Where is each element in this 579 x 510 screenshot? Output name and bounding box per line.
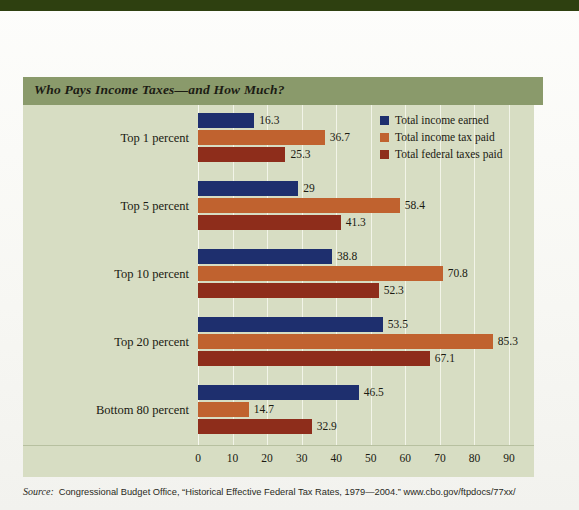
legend-item: Total income tax paid <box>380 130 530 145</box>
legend-item: Total federal taxes paid <box>380 147 530 162</box>
bar <box>198 402 249 417</box>
x-tick-label: 40 <box>330 452 342 464</box>
category-label: Bottom 80 percent <box>23 379 189 441</box>
legend-swatch-icon <box>380 150 389 159</box>
source-label: Source: <box>23 486 54 497</box>
x-tick-label: 60 <box>400 452 412 464</box>
x-tick-label: 30 <box>296 452 308 464</box>
bar-value-label: 38.8 <box>337 249 357 264</box>
figure-title-bar: Who Pays Income Taxes—and How Much? <box>23 77 543 105</box>
bar-value-label: 36.7 <box>330 130 350 145</box>
legend-label: Total income tax paid <box>395 130 495 145</box>
x-axis: 0102030405060708090 <box>23 445 534 477</box>
bar-value-label: 52.3 <box>384 283 404 298</box>
bar <box>198 334 493 349</box>
source-text: Congressional Budget Office, “Historical… <box>59 487 516 497</box>
bar-group: Top 20 percent53.585.367.1 <box>23 311 534 373</box>
legend-label: Total federal taxes paid <box>395 147 502 162</box>
bar <box>198 385 359 400</box>
source-note: Source:Congressional Budget Office, “His… <box>23 486 573 497</box>
bar-value-label: 53.5 <box>388 317 408 332</box>
bar-value-label: 29 <box>303 181 315 196</box>
legend-swatch-icon <box>380 133 389 142</box>
category-label: Top 5 percent <box>23 175 189 237</box>
x-tick-label: 10 <box>227 452 239 464</box>
bar-group: Bottom 80 percent46.514.732.9 <box>23 379 534 441</box>
x-tick-label: 0 <box>195 452 201 464</box>
chart-plot-area: Top 1 percent16.336.725.3Top 5 percent29… <box>23 105 534 477</box>
bar-value-label: 70.8 <box>448 266 468 281</box>
bar-value-label: 46.5 <box>364 385 384 400</box>
legend-item: Total income earned <box>380 113 530 128</box>
x-tick-label: 70 <box>434 452 446 464</box>
bar <box>198 181 298 196</box>
bar-value-label: 85.3 <box>498 334 518 349</box>
category-label: Top 1 percent <box>23 107 189 169</box>
x-axis-line <box>23 445 534 446</box>
bar <box>198 249 332 264</box>
legend-label: Total income earned <box>395 113 489 128</box>
bar-value-label: 14.7 <box>254 402 274 417</box>
top-rule-decoration <box>0 0 579 11</box>
category-label: Top 20 percent <box>23 311 189 373</box>
bar-value-label: 32.9 <box>317 419 337 434</box>
chart-legend: Total income earnedTotal income tax paid… <box>380 113 530 164</box>
bar <box>198 215 341 230</box>
category-label: Top 10 percent <box>23 243 189 305</box>
x-tick-label: 80 <box>469 452 481 464</box>
bar <box>198 198 400 213</box>
bar-value-label: 58.4 <box>405 198 425 213</box>
figure-title: Who Pays Income Taxes—and How Much? <box>34 82 285 98</box>
bar-value-label: 67.1 <box>435 351 455 366</box>
bar <box>198 130 325 145</box>
bar-group: Top 10 percent38.870.852.3 <box>23 243 534 305</box>
bar-value-label: 25.3 <box>290 147 310 162</box>
x-tick-label: 50 <box>365 452 377 464</box>
x-tick-label: 20 <box>261 452 273 464</box>
legend-swatch-icon <box>380 116 389 125</box>
bar-value-label: 16.3 <box>259 113 279 128</box>
bar <box>198 283 379 298</box>
bar-value-label: 41.3 <box>346 215 366 230</box>
bar <box>198 351 430 366</box>
bar-group: Top 5 percent2958.441.3 <box>23 175 534 237</box>
bar <box>198 317 383 332</box>
x-tick-label: 90 <box>503 452 515 464</box>
bar <box>198 147 285 162</box>
bar <box>198 419 312 434</box>
bar <box>198 266 443 281</box>
bar <box>198 113 254 128</box>
figure-panel: Who Pays Income Taxes—and How Much? Top … <box>23 77 543 477</box>
